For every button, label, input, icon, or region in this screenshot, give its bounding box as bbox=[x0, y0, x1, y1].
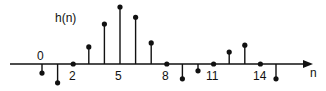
stem-dot bbox=[195, 68, 200, 73]
stem-dot bbox=[180, 76, 185, 81]
tick-label-11: 11 bbox=[206, 69, 219, 83]
stem-dot bbox=[71, 61, 76, 66]
stem-dot bbox=[273, 76, 278, 81]
x-axis bbox=[10, 60, 313, 68]
tick-label-14: 14 bbox=[253, 69, 267, 83]
stem-dot bbox=[164, 61, 169, 66]
stem-dot bbox=[102, 22, 107, 27]
stem-dot bbox=[86, 44, 91, 49]
tick-label-0: 0 bbox=[37, 49, 44, 63]
tick-label-5: 5 bbox=[115, 69, 122, 83]
tick-label-2: 2 bbox=[69, 69, 76, 83]
stem-dot bbox=[39, 71, 44, 76]
stem-dot bbox=[149, 40, 154, 45]
tick-label-8: 8 bbox=[162, 69, 169, 83]
stem-dot bbox=[258, 61, 263, 66]
stem-dot bbox=[227, 49, 232, 54]
stem-plot: h(n) n 0 2 5 8 11 14 bbox=[0, 0, 326, 91]
title-label: h(n) bbox=[55, 11, 76, 25]
axis-n-label: n bbox=[310, 66, 317, 80]
stem-dot bbox=[55, 80, 60, 85]
stem-dot bbox=[242, 43, 247, 48]
stem-dot bbox=[133, 15, 138, 20]
stem-dot bbox=[211, 61, 216, 66]
stem-dot bbox=[117, 4, 122, 9]
